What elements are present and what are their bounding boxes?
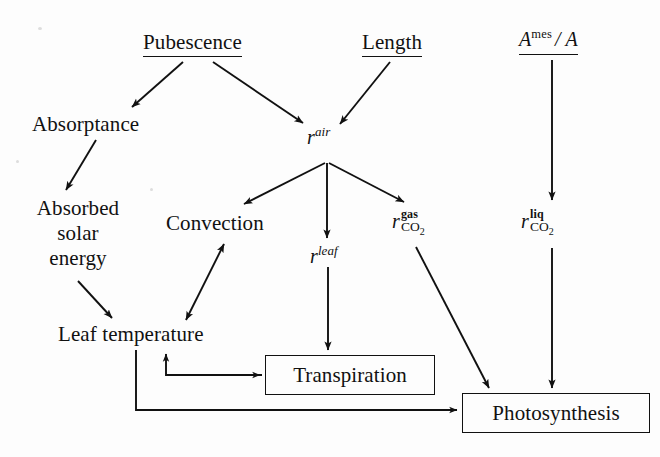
rgasco2-base: r [392, 210, 400, 232]
absorbed-line-1: Absorbed [22, 196, 134, 221]
rleaf-base: r [310, 245, 318, 267]
node-pubescence-label: Pubescence [143, 30, 242, 57]
node-photosynthesis-label: Photosynthesis [492, 401, 619, 426]
node-amesa[interactable]: Ames/ A [519, 27, 578, 55]
node-length[interactable]: Length [362, 30, 422, 55]
absorbed-line-2: solar [22, 221, 134, 246]
rleaf-superscript: leaf [318, 243, 338, 258]
edge-absorbed-to-leaftemp [78, 281, 112, 318]
node-leaf-temperature[interactable]: Leaf temperature [58, 322, 204, 347]
node-rleaf-label: rleaf [310, 243, 338, 269]
node-rliqco2[interactable]: r liq CO2 [521, 209, 554, 238]
rliqco2-sub-index: 2 [549, 226, 554, 237]
rliqco2-base: r [521, 210, 529, 232]
node-absorbed-solar-energy[interactable]: Absorbed solar energy [22, 196, 134, 270]
node-convection-label: Convection [166, 211, 264, 235]
node-pubescence[interactable]: Pubescence [143, 30, 242, 55]
node-rgasco2-label: r gas CO2 [392, 209, 425, 238]
rliqco2-supsub: liq CO2 [530, 208, 554, 237]
edge-rair-to-convection [244, 163, 325, 204]
amesa-tail: / A [555, 28, 578, 50]
rliqco2-subscript: CO2 [530, 220, 554, 237]
amesa-superscript: mes [531, 27, 552, 41]
rgasco2-subscript: CO2 [401, 220, 425, 237]
node-rliqco2-label: r liq CO2 [521, 209, 554, 238]
node-convection[interactable]: Convection [166, 211, 264, 236]
rgasco2-sub-index: 2 [420, 226, 425, 237]
edge-convection-leaftemp-bidirectional [186, 244, 224, 320]
absorbed-line-3: energy [22, 246, 134, 271]
node-absorptance-label: Absorptance [32, 112, 139, 136]
edge-pubescence-to-absorptance [132, 62, 183, 107]
node-leaf-temperature-label: Leaf temperature [58, 322, 204, 346]
rgasco2-supsub: gas CO2 [401, 208, 425, 237]
node-rleaf[interactable]: rleaf [310, 243, 338, 269]
node-amesa-label: Ames/ A [519, 27, 578, 55]
edge-length-to-rair [340, 62, 390, 124]
rair-superscript: air [315, 124, 330, 139]
node-photosynthesis[interactable]: Photosynthesis [462, 393, 650, 433]
edge-rair-to-rgasco2 [329, 163, 404, 202]
node-rair[interactable]: rair [307, 124, 330, 150]
rair-base: r [307, 126, 315, 148]
node-transpiration-label: Transpiration [293, 363, 407, 388]
edge-transpiration-to-leaftemp-feedback [166, 354, 262, 375]
node-transpiration[interactable]: Transpiration [265, 355, 435, 395]
node-length-label: Length [362, 30, 422, 57]
amesa-base: A [519, 28, 531, 50]
diagram-canvas: Pubescence Length Ames/ A Absorptance ra… [0, 0, 660, 457]
edge-pubescence-to-rair [213, 62, 303, 123]
node-rgasco2[interactable]: r gas CO2 [392, 209, 425, 238]
edge-absorptance-to-absorbed [66, 140, 96, 190]
node-rair-label: rair [307, 124, 330, 150]
node-absorptance[interactable]: Absorptance [32, 112, 139, 137]
